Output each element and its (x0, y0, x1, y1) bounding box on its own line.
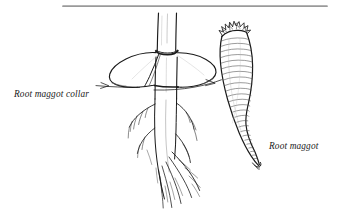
figure-root-maggot-collar: Root maggot collar Root maggot (0, 0, 339, 221)
label-root-maggot-collar: Root maggot collar (14, 89, 89, 100)
illustration-canvas (0, 0, 339, 221)
ink-group (63, 0, 339, 208)
leader-lines (96, 80, 221, 90)
leader-arrowhead-collar (101, 83, 109, 89)
root-maggot-collar (109, 53, 216, 88)
root-system (128, 99, 200, 208)
leader-line-collar (96, 86, 140, 88)
spiracular-spines (219, 21, 251, 35)
label-root-maggot: Root maggot (269, 141, 318, 152)
